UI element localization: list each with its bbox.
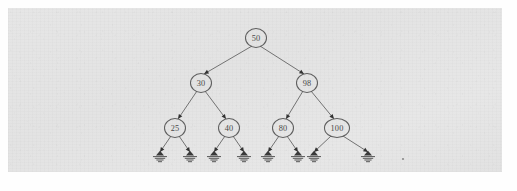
node-value-label: 100	[330, 124, 343, 133]
tree-node-80[interactable]: 80	[273, 119, 294, 138]
scan-speck	[402, 158, 404, 160]
edge-arrowhead-n25	[178, 114, 182, 119]
tree-node-98[interactable]: 98	[297, 74, 318, 93]
ground-triangle-icon	[310, 151, 318, 156]
tree-edge-n50-n98	[260, 46, 304, 74]
tree-edge-n30-n25	[178, 91, 197, 119]
tree-node-40[interactable]: 40	[219, 119, 240, 138]
screenshot-root: 503098254080100	[0, 0, 517, 191]
ground-triangle-icon	[210, 151, 218, 156]
null-leaf-marker	[237, 151, 251, 162]
edge-arrowhead-n98	[299, 70, 304, 74]
node-value-label: 25	[171, 124, 180, 133]
tree-node-100[interactable]: 100	[325, 119, 350, 138]
tree-edge-n50-n30	[204, 46, 252, 74]
null-leaf-marker	[261, 151, 275, 162]
null-leaf-marker	[361, 151, 375, 162]
ground-triangle-icon	[156, 151, 164, 156]
edge-arrowhead-g6	[294, 147, 298, 152]
tree-node-50[interactable]: 50	[246, 29, 267, 48]
null-leaf-marker	[307, 151, 321, 162]
edge-arrowhead-g1	[160, 147, 164, 152]
tree-node-25[interactable]: 25	[165, 119, 186, 138]
tree-arrowheads-group	[160, 70, 368, 152]
edge-arrowhead-g4	[240, 147, 244, 152]
null-leaf-marker	[207, 151, 221, 162]
tree-edge-n98-n80	[286, 91, 303, 119]
ground-triangle-icon	[186, 151, 194, 156]
null-leaf-marker	[183, 151, 197, 162]
edge-arrowhead-g2	[186, 147, 190, 152]
edge-arrowhead-g8	[363, 148, 368, 152]
ground-triangle-icon	[294, 151, 302, 156]
tree-edge-n98-n100	[311, 91, 334, 119]
null-terminator-group	[153, 151, 375, 162]
node-value-label: 98	[303, 79, 312, 88]
tree-node-30[interactable]: 30	[191, 74, 212, 93]
node-value-label: 50	[252, 34, 261, 43]
null-leaf-marker	[153, 151, 167, 162]
scan-artifacts-group	[402, 158, 404, 160]
binary-search-tree-diagram: 503098254080100	[0, 0, 517, 191]
ground-triangle-icon	[240, 151, 248, 156]
tree-nodes-group: 503098254080100	[165, 29, 350, 138]
node-value-label: 40	[225, 124, 234, 133]
edge-arrowhead-g5	[268, 147, 272, 152]
tree-edges-group	[160, 46, 368, 152]
null-leaf-marker	[291, 151, 305, 162]
ground-triangle-icon	[264, 151, 272, 156]
tree-edge-n30-n40	[205, 91, 226, 119]
node-value-label: 80	[279, 124, 288, 133]
edge-arrowhead-g3	[214, 147, 218, 152]
edge-arrowhead-n40	[222, 114, 226, 119]
node-value-label: 30	[197, 79, 206, 88]
